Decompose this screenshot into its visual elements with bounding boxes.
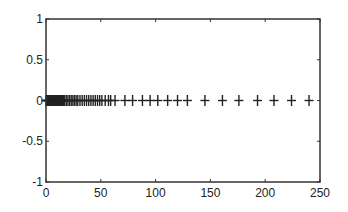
- plus-marker: [253, 95, 262, 106]
- plus-marker: [128, 95, 137, 106]
- plus-marker: [183, 95, 192, 106]
- data-markers: [42, 95, 314, 106]
- y-tick-label: -0.5: [22, 134, 43, 148]
- x-axis-ticks: 050100150200250: [43, 19, 331, 200]
- plus-marker: [138, 95, 147, 106]
- plus-marker: [153, 95, 162, 106]
- plus-marker: [111, 95, 120, 106]
- plus-marker: [287, 95, 296, 106]
- plus-marker: [305, 95, 314, 106]
- y-tick-label: -1: [32, 175, 43, 189]
- y-tick-label: 1: [36, 12, 43, 26]
- x-tick-label: 50: [94, 186, 108, 200]
- plus-marker: [173, 95, 182, 106]
- plus-marker: [269, 95, 278, 106]
- y-tick-label: 0.5: [26, 53, 43, 67]
- plus-marker: [120, 95, 129, 106]
- plus-marker: [218, 95, 227, 106]
- plus-marker: [146, 95, 155, 106]
- plus-marker: [200, 95, 209, 106]
- x-tick-label: 150: [200, 186, 220, 200]
- plus-marker: [234, 95, 243, 106]
- x-tick-label: 250: [310, 186, 330, 200]
- x-tick-label: 200: [255, 186, 275, 200]
- plus-marker: [163, 95, 172, 106]
- x-tick-label: 0: [43, 186, 50, 200]
- scatter-chart: 050100150200250 10.50-0.5-1: [0, 0, 348, 212]
- x-tick-label: 100: [146, 186, 166, 200]
